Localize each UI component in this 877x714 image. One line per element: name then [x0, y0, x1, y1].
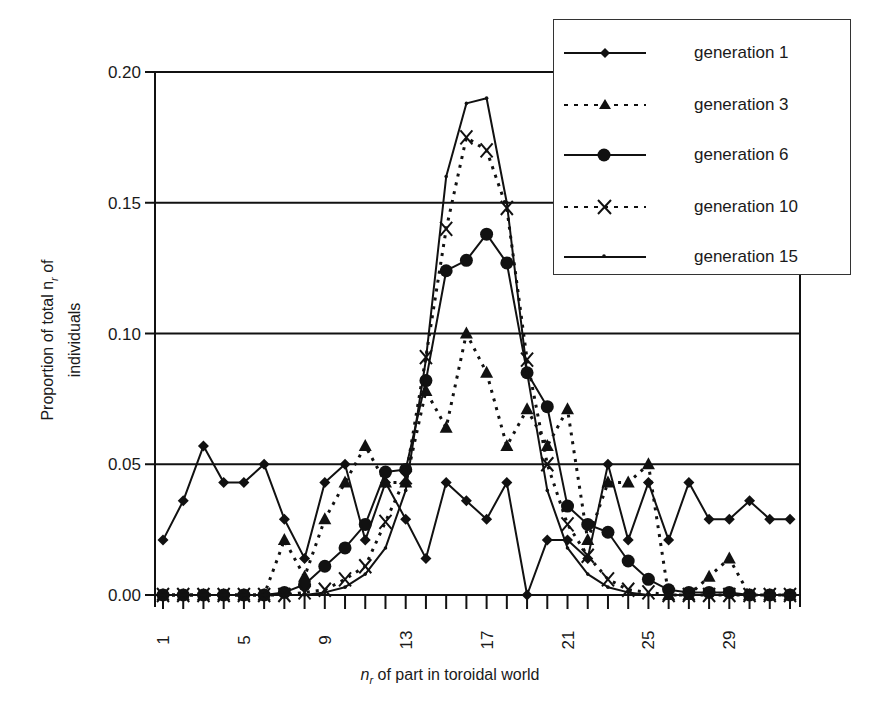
circle-marker-icon	[339, 541, 352, 554]
diamond-marker-icon	[704, 514, 715, 525]
dot-marker-icon	[485, 96, 489, 100]
circle-marker-icon	[440, 264, 453, 277]
diamond-marker-icon	[198, 440, 209, 451]
legend-item-generation-15: generation 15	[554, 242, 850, 272]
dot-marker-icon	[424, 358, 428, 362]
legend-line-diamond-icon	[564, 38, 664, 68]
x-tick-label: 13	[397, 631, 416, 650]
y-tick-label: 0.10	[108, 325, 141, 344]
circle-marker-icon	[318, 560, 331, 573]
triangle-marker-icon	[622, 476, 635, 488]
triangle-marker-icon	[561, 402, 574, 414]
triangle-marker-icon	[440, 421, 453, 433]
diamond-marker-icon	[663, 535, 674, 546]
legend-line-triangle-icon	[564, 90, 664, 120]
circle-marker-icon	[581, 518, 594, 531]
diamond-marker-icon	[501, 477, 512, 488]
dot-marker-icon	[323, 591, 327, 595]
x-tick-label: 9	[316, 635, 335, 644]
y-axis-label: Proportion of total nr of individuals	[22, 190, 102, 490]
x-tick-label: 21	[559, 631, 578, 650]
diamond-marker-icon	[602, 459, 613, 470]
triangle-marker-icon	[480, 366, 493, 378]
y-axis-label-line2: individuals	[65, 259, 87, 420]
series-line	[163, 446, 790, 595]
dot-marker-icon	[586, 572, 590, 576]
dot-marker-icon	[465, 102, 469, 106]
diamond-marker-icon	[420, 553, 431, 564]
legend-item-generation-10: generation 10	[554, 192, 850, 222]
x-marker-icon	[379, 515, 391, 529]
diamond-marker-icon	[360, 535, 371, 546]
dot-marker-icon	[404, 489, 408, 493]
dot-marker-icon	[505, 201, 509, 205]
y-tick-label: 0.05	[108, 455, 141, 474]
legend-label: generation 1	[694, 43, 789, 63]
dot-marker-icon	[343, 585, 347, 589]
x-tick-label: 5	[235, 635, 254, 644]
diamond-marker-icon	[400, 514, 411, 525]
diamond-marker-icon	[218, 477, 229, 488]
circle-marker-icon	[379, 466, 392, 479]
circle-marker-icon	[480, 228, 493, 241]
x-marker-icon	[440, 222, 452, 236]
legend-item-generation-6: generation 6	[554, 140, 850, 170]
x-marker-icon	[359, 559, 371, 573]
x-marker-icon	[460, 130, 472, 144]
x-axis-label-text: of part in toroidal world	[373, 666, 539, 683]
circle-marker-icon	[601, 526, 614, 539]
x-tick-label: 29	[720, 631, 739, 650]
circle-marker-icon	[278, 586, 291, 599]
triangle-marker-icon	[318, 512, 331, 524]
circle-marker-icon	[359, 518, 372, 531]
dot-marker-icon	[363, 572, 367, 576]
dot-marker-icon	[626, 591, 630, 595]
circle-marker-icon	[622, 555, 635, 568]
legend-label: generation 15	[694, 247, 798, 267]
triangle-marker-icon	[359, 439, 372, 451]
x-tick-label: 1	[154, 635, 173, 644]
circle-marker-icon	[460, 254, 473, 267]
dot-marker-icon	[384, 546, 388, 550]
diamond-marker-icon	[683, 477, 694, 488]
diamond-marker-icon	[279, 514, 290, 525]
circle-marker-icon	[703, 586, 716, 599]
x-axis-label: nr of part in toroidal world	[300, 666, 600, 686]
legend-label: generation 3	[694, 95, 789, 115]
y-tick-label: 0.20	[108, 63, 141, 82]
circle-marker-icon	[298, 578, 311, 591]
x-tick-label: 25	[639, 631, 658, 650]
diamond-marker-icon	[542, 535, 553, 546]
circle-marker-icon	[541, 400, 554, 413]
legend: generation 1 generation 3 generation 6 g…	[553, 19, 851, 275]
legend-item-generation-1: generation 1	[554, 38, 850, 68]
legend-label: generation 6	[694, 145, 789, 165]
legend-line-circle-icon	[564, 140, 664, 170]
dot-marker-icon	[525, 371, 529, 375]
dot-marker-icon	[606, 585, 610, 589]
dot-marker-icon	[545, 489, 549, 493]
x-marker-icon	[562, 517, 574, 531]
triangle-marker-icon	[500, 439, 513, 451]
dot-marker-icon	[566, 546, 570, 550]
dot-marker-icon	[444, 175, 448, 179]
legend-line-x-icon	[564, 192, 664, 222]
y-axis-label-subscript: r	[48, 277, 60, 281]
triangle-marker-icon	[723, 551, 736, 563]
circle-marker-icon	[723, 586, 736, 599]
diamond-marker-icon	[623, 535, 634, 546]
series-line	[163, 234, 790, 595]
triangle-marker-icon	[278, 533, 291, 545]
y-axis-label-tail: of	[39, 259, 56, 277]
y-tick-label: 0.15	[108, 194, 141, 213]
circle-marker-icon	[500, 256, 513, 269]
diamond-marker-icon	[178, 495, 189, 506]
circle-marker-icon	[642, 573, 655, 586]
circle-marker-icon	[682, 586, 695, 599]
y-axis-label-text: Proportion of total n	[39, 281, 56, 421]
legend-item-generation-3: generation 3	[554, 90, 850, 120]
legend-label: generation 10	[694, 197, 798, 217]
legend-line-dot-icon	[564, 242, 664, 272]
x-marker-icon	[481, 143, 493, 157]
x-tick-label: 17	[478, 631, 497, 650]
